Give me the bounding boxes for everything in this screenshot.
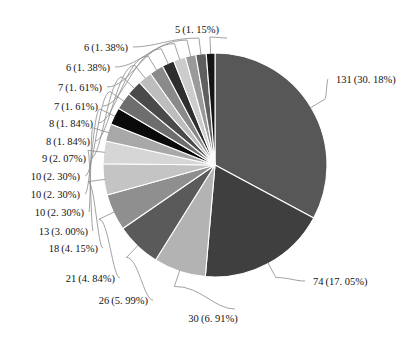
pie-label-slice-9: 9 (2. 07%) [42,153,86,164]
pie-label-slice-74: 74 (17. 05%) [313,276,368,287]
pie-label-slice-13: 13 (3. 00%) [39,226,88,237]
pie-label-slice-18: 18 (4. 15%) [49,243,98,254]
pie-label-slice-7-b: 7 (1. 61%) [58,82,102,93]
pie-label-slice-6-a: 6 (1. 38%) [66,62,110,73]
pie-label-slice-6-b: 6 (1. 38%) [84,42,128,53]
pie-label-slice-8-b: 8 (1. 84%) [49,118,93,129]
pie-label-slice-7-a: 7 (1. 61%) [54,101,98,112]
pie-label-slice-10-a: 10 (2. 30%) [35,207,84,218]
pie-slices-group [103,53,327,277]
pie-label-slice-21: 21 (4. 84%) [66,273,115,284]
pie-label-slice-5: 5 (1. 15%) [175,24,219,35]
pie-label-slice-10-c: 10 (2. 30%) [31,171,80,182]
pie-label-slice-131: 131 (30. 18%) [336,74,396,85]
pie-label-slice-8-a: 8 (1. 84%) [46,136,90,147]
pie-label-slice-30: 30 (6. 91%) [188,313,237,324]
pie-label-slice-26: 26 (5. 99%) [99,295,148,306]
pie-label-slice-10-b: 10 (2. 30%) [31,189,80,200]
